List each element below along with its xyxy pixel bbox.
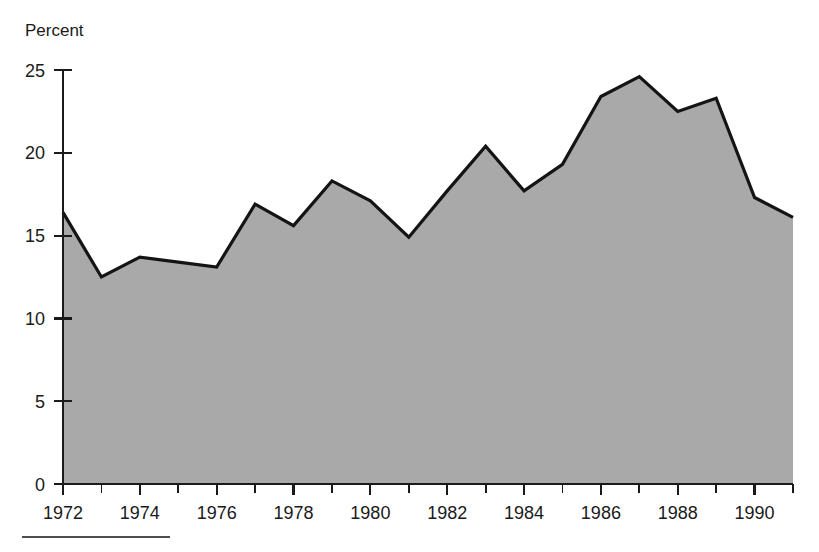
- x-axis-tick-labels: 1972197419761978198019821984198619881990: [43, 503, 775, 523]
- y-axis-title: Percent: [25, 21, 84, 40]
- x-axis-ticks: [63, 484, 793, 495]
- x-tick-label: 1990: [735, 503, 775, 523]
- x-tick-label: 1986: [581, 503, 621, 523]
- percent-area-chart: 0510152025 19721974197619781980198219841…: [0, 0, 819, 552]
- y-tick-label: 15: [25, 226, 45, 246]
- plot-area-fill: [63, 77, 793, 484]
- x-tick-label: 1980: [350, 503, 390, 523]
- y-tick-label: 20: [25, 143, 45, 163]
- chart-container: 0510152025 19721974197619781980198219841…: [0, 0, 819, 552]
- x-tick-label: 1982: [427, 503, 467, 523]
- y-tick-label: 25: [25, 61, 45, 81]
- y-tick-label: 10: [25, 309, 45, 329]
- x-tick-label: 1974: [120, 503, 160, 523]
- x-tick-label: 1972: [43, 503, 83, 523]
- x-tick-label: 1984: [504, 503, 544, 523]
- x-tick-label: 1978: [274, 503, 314, 523]
- series-area-percent: [63, 77, 793, 484]
- x-tick-label: 1976: [197, 503, 237, 523]
- x-tick-label: 1988: [658, 503, 698, 523]
- y-axis-tick-labels: 0510152025: [25, 61, 45, 495]
- y-tick-label: 5: [35, 392, 45, 412]
- y-tick-label: 0: [35, 475, 45, 495]
